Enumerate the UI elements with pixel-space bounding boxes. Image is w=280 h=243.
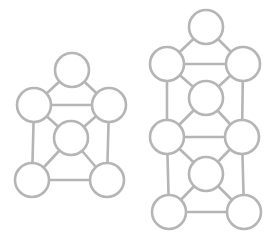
node-L-top <box>55 53 89 87</box>
graph-diagram-canvas <box>0 0 280 243</box>
node-L-mid-right <box>92 88 126 122</box>
node-L-mid-left <box>17 88 51 122</box>
right-graph-nodes <box>150 10 261 229</box>
node-L-center <box>54 121 88 155</box>
node-R-row2-left <box>150 120 184 154</box>
node-R-row1-left <box>150 47 184 81</box>
node-L-bottom-right <box>90 163 124 197</box>
node-R-row2-right <box>225 120 259 154</box>
node-R-row3-left <box>152 195 186 229</box>
node-R-center2 <box>189 157 223 191</box>
right-graph <box>150 10 261 229</box>
node-R-row3-right <box>227 195 261 229</box>
node-R-top <box>189 10 223 44</box>
node-R-center1 <box>189 81 223 115</box>
left-graph <box>15 53 126 197</box>
node-R-row1-right <box>226 47 260 81</box>
node-L-bottom-left <box>15 163 49 197</box>
